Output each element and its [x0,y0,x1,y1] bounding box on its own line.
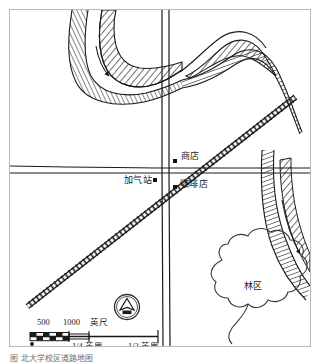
label-coffee-shop: 咖啡店 [180,180,208,189]
coffee-shop-marker [173,185,177,189]
railroad-track [25,95,297,309]
river-northeast [180,32,302,134]
scale-unit-feet: 英尺 [90,318,108,327]
map-figure: 商店 加气站 咖啡店 林区 500 1000 英尺 1/4 英里 1/2 英里 … [0,0,319,364]
vertical-road [162,10,170,346]
scale-tick-1000: 1000 [63,318,80,327]
store-marker [173,159,177,163]
figure-caption: 图 北大学校区道路地图 [10,352,310,363]
scale-tick-500: 500 [37,318,50,327]
scale-quarter-mile: 1/4 英里 [72,342,103,347]
river-northwest [69,10,182,104]
scale-half-mile: 1/2 英里 [128,342,159,347]
gas-station-marker [153,178,157,182]
map-drawing [10,10,310,346]
map-frame: 商店 加气站 咖啡店 林区 500 1000 英尺 1/4 英里 1/2 英里 [9,9,311,347]
label-store: 商店 [181,152,200,161]
north-arrow-icon [115,295,140,320]
label-gas-station: 加气站 [124,176,152,185]
label-forest: 林区 [244,282,263,291]
